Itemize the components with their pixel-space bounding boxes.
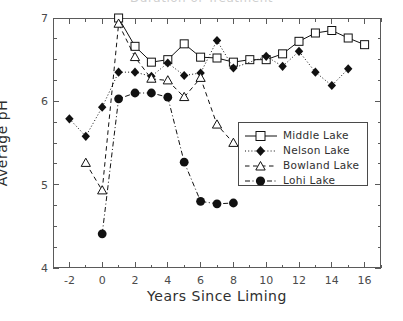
series-middle-lake xyxy=(115,14,369,66)
chart-container: Duration of Treatment Average pH Years S… xyxy=(0,0,403,321)
data-point xyxy=(130,52,139,60)
data-point xyxy=(147,58,155,66)
data-point xyxy=(344,64,352,73)
data-point xyxy=(328,27,336,35)
legend-label: Middle Lake xyxy=(283,129,349,141)
data-point xyxy=(81,158,90,166)
data-point xyxy=(180,40,188,48)
data-point xyxy=(98,186,107,194)
data-point xyxy=(212,120,221,128)
data-point xyxy=(311,68,319,77)
legend-swatch-nelson-lake xyxy=(244,143,278,157)
data-point xyxy=(197,53,205,61)
data-point xyxy=(246,56,254,64)
data-point xyxy=(180,71,188,80)
legend-item[interactable]: Lohi Lake xyxy=(244,172,362,187)
data-point xyxy=(344,34,352,42)
legend-item[interactable]: Nelson Lake xyxy=(244,142,362,157)
data-point xyxy=(196,73,205,81)
legend-item[interactable]: Middle Lake xyxy=(244,127,362,142)
data-point xyxy=(65,114,73,123)
data-point xyxy=(131,89,140,98)
data-point xyxy=(180,158,189,167)
data-point xyxy=(131,42,139,50)
data-point xyxy=(114,94,123,103)
data-point xyxy=(98,103,106,112)
series-line xyxy=(102,93,233,234)
legend-swatch-lohi-lake xyxy=(244,173,278,187)
data-point xyxy=(163,93,172,102)
data-point xyxy=(213,54,221,62)
data-point xyxy=(229,199,238,208)
data-point xyxy=(163,76,172,84)
series-lohi-lake xyxy=(98,89,238,239)
data-point xyxy=(311,29,319,37)
series-line xyxy=(119,18,365,62)
data-point xyxy=(98,229,107,238)
data-point xyxy=(213,36,221,45)
legend-label: Bowland Lake xyxy=(283,159,359,171)
legend-swatch-middle-lake xyxy=(244,128,278,142)
series-line xyxy=(86,24,234,191)
data-point xyxy=(114,68,122,77)
legend-label: Nelson Lake xyxy=(283,144,350,156)
data-point xyxy=(196,197,205,206)
data-point xyxy=(147,89,156,98)
data-point xyxy=(361,41,369,49)
data-point xyxy=(279,50,287,58)
legend-item[interactable]: Bowland Lake xyxy=(244,157,362,172)
data-point xyxy=(131,68,139,77)
chart-legend: Middle Lake Nelson Lake Bowland Lake xyxy=(238,122,368,186)
legend-swatch-bowland-lake xyxy=(244,158,278,172)
legend-label: Lohi Lake xyxy=(283,174,335,186)
data-point xyxy=(213,199,222,208)
data-point xyxy=(229,138,238,146)
data-point xyxy=(295,37,303,45)
